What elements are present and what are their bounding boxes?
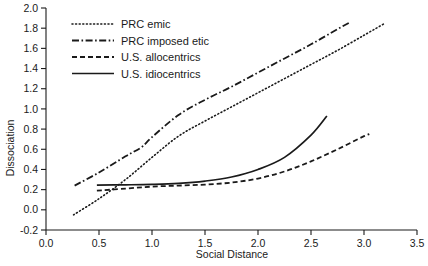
line-chart: -0.20.00.20.40.60.81.01.21.41.61.82.0 0.…: [0, 0, 428, 266]
y-tick-label: 1.0: [23, 103, 38, 115]
chart-legend: PRC emicPRC imposed eticU.S. allocentric…: [72, 18, 210, 80]
y-tick-label: 1.4: [23, 62, 38, 74]
y-axis-title: Dissociation: [4, 120, 16, 177]
y-tick-label: 1.8: [23, 22, 38, 34]
legend-label: U.S. allocentrics: [121, 51, 201, 63]
y-tick-label: 0.2: [23, 183, 38, 195]
x-tick-label: 0.0: [39, 237, 54, 249]
chart-container: -0.20.00.20.40.60.81.01.21.41.61.82.0 0.…: [0, 0, 428, 266]
x-tick-label: 2.5: [304, 237, 319, 249]
x-axis-ticks: [46, 230, 417, 235]
x-tick-label: 3.0: [357, 237, 372, 249]
y-tick-label: 2.0: [23, 2, 38, 14]
y-axis-ticks: [41, 8, 46, 230]
y-tick-label: 1.2: [23, 82, 38, 94]
y-tick-label: 1.6: [23, 42, 38, 54]
y-tick-label: 0.6: [23, 143, 38, 155]
y-axis-tick-labels: -0.20.00.20.40.60.81.01.21.41.61.82.0: [20, 2, 38, 236]
y-tick-label: 0.4: [23, 163, 38, 175]
legend-label: PRC imposed etic: [121, 35, 210, 47]
legend-label: PRC emic: [121, 18, 171, 30]
y-tick-label: 0.0: [23, 203, 38, 215]
x-axis-title: Social Distance: [196, 248, 269, 260]
y-tick-label: -0.2: [20, 224, 38, 236]
x-tick-label: 3.5: [410, 237, 425, 249]
series-line-u-s-allocentrics: [97, 134, 369, 191]
x-tick-label: 0.5: [92, 237, 107, 249]
y-tick-label: 0.8: [23, 123, 38, 135]
x-tick-label: 1.0: [145, 237, 160, 249]
series-line-u-s-idiocentrics: [97, 116, 327, 185]
legend-label: U.S. idiocentrics: [121, 68, 201, 80]
series-line-prc-imposed-etic: [75, 22, 351, 185]
